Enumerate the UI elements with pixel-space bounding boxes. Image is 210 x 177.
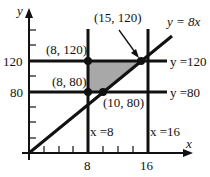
y-tick-80: 80 [10, 85, 23, 100]
point-8-120 [84, 57, 92, 65]
label-point-8-120: (8, 120) [46, 42, 87, 57]
pointer-arrow-head-icon [131, 49, 139, 58]
x-axis-label: x [185, 136, 192, 151]
feasible-region [88, 61, 141, 92]
point-15-120 [137, 57, 145, 65]
x-tick-8: 8 [84, 158, 91, 173]
label-point-15-120: (15, 120) [94, 10, 142, 25]
label-point-10-80: (10, 80) [103, 95, 144, 110]
y-tick-120: 120 [3, 54, 23, 69]
linear-programming-diagram: y x 120 80 8 16 (8, 120) (15, 120) (8, 8… [0, 0, 210, 177]
point-8-80 [84, 88, 92, 96]
x-tick-16: 16 [140, 158, 154, 173]
label-line-x-8: x =8 [90, 124, 114, 139]
y-axis-label: y [15, 3, 23, 18]
label-line-y-80: y =80 [170, 85, 200, 100]
label-line-y-8x: y = 8x [165, 14, 201, 29]
label-point-8-80: (8, 80) [52, 74, 87, 89]
y-axis-arrow-icon [25, 8, 33, 18]
y-ticks [29, 30, 36, 138]
label-line-y-120: y =120 [170, 54, 207, 69]
label-line-x-16: x =16 [150, 124, 181, 139]
